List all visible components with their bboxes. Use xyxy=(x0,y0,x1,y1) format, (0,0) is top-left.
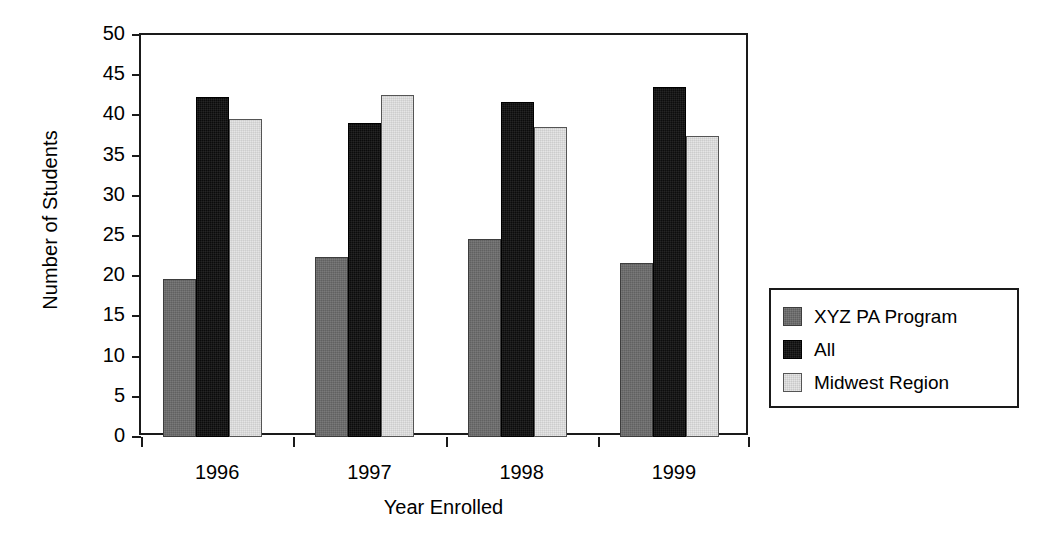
y-axis-tick-mark xyxy=(132,396,141,398)
x-axis-tick-mark xyxy=(446,437,448,447)
bar xyxy=(348,123,381,437)
bar xyxy=(315,257,348,437)
y-axis-tick-mark xyxy=(132,235,141,237)
x-axis-tick-mark xyxy=(141,437,143,447)
bar xyxy=(620,263,653,437)
x-axis-tick-mark xyxy=(598,437,600,447)
bar xyxy=(163,279,196,437)
y-axis-tick-label: 45 xyxy=(79,62,125,84)
legend-item[interactable]: XYZ PA Program xyxy=(783,300,1017,333)
legend-item-label: Midwest Region xyxy=(814,372,949,394)
legend-item-label: XYZ PA Program xyxy=(814,306,957,328)
y-axis-tick-label: 35 xyxy=(79,143,125,165)
y-axis-tick-label: 30 xyxy=(79,183,125,205)
y-axis-tick-mark xyxy=(132,356,141,358)
x-axis-tick-label: 1998 xyxy=(446,461,598,484)
y-axis-tick-label: 0 xyxy=(79,424,125,446)
y-axis-title: Number of Students xyxy=(22,0,78,440)
x-axis-title: Year Enrolled xyxy=(139,496,748,519)
legend-item-label: All xyxy=(814,339,835,361)
bar xyxy=(381,95,414,438)
x-axis-tick-label: 1997 xyxy=(293,461,445,484)
bar xyxy=(501,102,534,437)
legend-item[interactable]: All xyxy=(783,333,1017,366)
y-axis-tick-mark xyxy=(132,34,141,36)
bar xyxy=(686,136,719,438)
y-axis-tick-label: 20 xyxy=(79,263,125,285)
x-axis-tick-label: 1996 xyxy=(141,461,293,484)
bar xyxy=(229,119,262,437)
x-axis-tick-mark xyxy=(293,437,295,447)
y-axis-tick-label: 5 xyxy=(79,384,125,406)
y-axis-tick-mark xyxy=(132,315,141,317)
y-axis-tick-mark xyxy=(132,155,141,157)
y-axis-tick-label: 40 xyxy=(79,102,125,124)
bar xyxy=(653,87,686,437)
bar-chart-figure: Number of Students 05101520253035404550 … xyxy=(0,0,1053,544)
y-axis-tick-mark xyxy=(132,436,141,438)
legend-swatch-icon xyxy=(783,307,802,326)
y-axis-tick-mark xyxy=(132,114,141,116)
y-axis-tick-mark xyxy=(132,195,141,197)
legend-swatch-icon xyxy=(783,340,802,359)
y-axis-tick-label: 10 xyxy=(79,344,125,366)
legend-swatch-icon xyxy=(783,373,802,392)
plot-area: 05101520253035404550 1996199719981999 xyxy=(139,33,748,435)
x-axis-tick-label: 1999 xyxy=(598,461,750,484)
bar xyxy=(196,97,229,437)
legend-item[interactable]: Midwest Region xyxy=(783,366,1017,399)
chart-legend: XYZ PA ProgramAllMidwest Region xyxy=(769,288,1019,408)
bar-series-container xyxy=(141,35,750,437)
y-axis-tick-label: 50 xyxy=(79,22,125,44)
x-axis-tick-mark xyxy=(748,437,750,447)
y-axis-tick-mark xyxy=(132,275,141,277)
y-axis-tick-label: 25 xyxy=(79,223,125,245)
y-axis-tick-mark xyxy=(132,74,141,76)
bar xyxy=(534,127,567,437)
y-axis-tick-label: 15 xyxy=(79,303,125,325)
bar xyxy=(468,239,501,437)
